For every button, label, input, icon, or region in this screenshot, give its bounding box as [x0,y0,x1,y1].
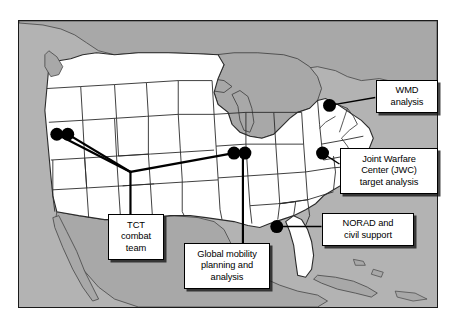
callout-tct-label: TCT combat team [114,220,158,255]
callout-wmd-analysis[interactable]: WMD analysis [376,80,438,113]
callout-jwc-label: Joint Warfare Center (JWC) target analys… [346,154,432,189]
callout-joint-warfare-center[interactable]: Joint Warfare Center (JWC) target analys… [340,148,438,194]
callout-gmpa-label: Global mobility planning and analysis [190,249,264,284]
callout-wmd-label: WMD analysis [382,85,432,108]
site-wmd [323,99,336,112]
site-jwc [316,147,329,160]
site-west-2 [61,128,74,141]
callout-norad-label: NORAD and civil support [328,218,408,241]
site-mid-2 [238,147,251,160]
figure-container: WMD analysis Joint Warfare Center (JWC) … [0,0,456,325]
callout-tct-combat-team[interactable]: TCT combat team [108,214,164,260]
callout-global-mobility-planning[interactable]: Global mobility planning and analysis [184,243,270,289]
site-norad [270,220,283,233]
callout-norad-civil-support[interactable]: NORAD and civil support [322,213,414,246]
